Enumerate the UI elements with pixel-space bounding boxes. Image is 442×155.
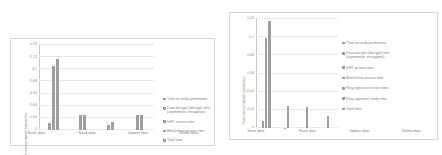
- legend-label: Time to verify permission: [167, 97, 207, 101]
- x-axis-tick-label: Update data: [334, 130, 386, 134]
- legend-item: Data encrypt (decrypt) time (asymmetric …: [163, 106, 225, 114]
- legend-swatch-icon: [342, 97, 345, 100]
- y-axis-tick-label: 0.04: [247, 90, 254, 94]
- bar: [107, 125, 110, 130]
- x-axis-labels-right: Store dataRead dataUpdate dataDelete dat…: [230, 130, 437, 134]
- figure-container: Time consumption (seconds) 00.020.040.06…: [0, 0, 442, 155]
- plot-frame-right: Time consumption (seconds) 00.020.040.06…: [229, 12, 438, 140]
- bar: [306, 107, 308, 128]
- bar: [83, 115, 86, 130]
- bar: [136, 115, 139, 130]
- legend-item: Blockchain access time: [163, 129, 225, 133]
- x-axis-tick-label: Update data: [113, 132, 164, 136]
- bar: [79, 115, 82, 130]
- legend-label: Data encrypt (decrypt) time (asymmetric …: [167, 106, 210, 114]
- legend-item: Ring signature verify time: [342, 97, 442, 101]
- y-axis-tick-label: 0.1: [32, 68, 37, 72]
- y-axis-tick-label: 0.08: [30, 80, 37, 84]
- y-axis-tick-label: 0.12: [247, 17, 254, 21]
- y-axis-tick-label: 0.06: [247, 72, 254, 76]
- bar-group: [256, 19, 277, 128]
- legend-swatch-icon: [163, 130, 166, 133]
- legend-item: Data encrypt (decrypt) time (asymmetric …: [342, 51, 442, 59]
- x-axis-tick-label: Read data: [282, 130, 334, 134]
- plot-area-left: 00.020.040.060.080.10.120.14: [39, 45, 154, 130]
- legend-item: Time to verify permission: [342, 41, 442, 45]
- legend-label: Total time: [346, 107, 361, 111]
- legend-item: Ring signature create time: [342, 86, 442, 90]
- bar-group: [277, 19, 298, 128]
- legend-item: DHT access time: [342, 66, 442, 70]
- legend-left: Time to verify permissionData encrypt (d…: [163, 97, 225, 148]
- y-axis-tick-label: 0.12: [30, 55, 37, 59]
- bar-groups-left: [39, 45, 154, 130]
- legend-item: Blockchain access time: [342, 76, 442, 80]
- y-axis-tick-label: 0.08: [247, 54, 254, 58]
- y-axis-tick-label: 0.02: [247, 108, 254, 112]
- bar-group: [39, 45, 68, 130]
- legend-swatch-icon: [342, 77, 345, 80]
- legend-swatch-icon: [342, 52, 345, 55]
- bar: [262, 121, 264, 128]
- bar-group: [97, 45, 126, 130]
- bar: [265, 38, 267, 128]
- legend-item: Total time: [163, 138, 225, 142]
- bar-group: [297, 19, 318, 128]
- bar-group: [68, 45, 97, 130]
- legend-label: Blockchain access time: [346, 76, 383, 80]
- legend-swatch-icon: [163, 120, 166, 123]
- bar: [56, 59, 59, 130]
- legend-swatch-icon: [342, 87, 345, 90]
- legend-label: DHT access time: [167, 120, 194, 124]
- chart-panel-left: Time consumption (seconds) 00.020.040.06…: [0, 0, 221, 155]
- legend-swatch-icon: [163, 139, 166, 142]
- chart-panel-right: Time consumption (seconds) 00.020.040.06…: [221, 0, 442, 155]
- bar: [327, 116, 329, 128]
- x-axis-tick-label: Store data: [230, 130, 282, 134]
- bar: [48, 123, 51, 130]
- bar-group: [318, 19, 339, 128]
- x-axis-tick-label: Delete data: [385, 130, 437, 134]
- y-axis-tick-label: 0.02: [30, 116, 37, 120]
- legend-swatch-icon: [342, 108, 345, 111]
- bar: [287, 106, 289, 128]
- y-axis-tick-label: 0.06: [30, 92, 37, 96]
- y-axis-tick-label: 0.04: [30, 104, 37, 108]
- legend-label: Ring signature verify time: [346, 97, 387, 101]
- x-axis-tick-label: Store data: [11, 132, 62, 136]
- y-axis-title-right: Time consumption (seconds): [243, 76, 247, 125]
- bar: [268, 21, 270, 128]
- legend-swatch-icon: [163, 107, 166, 110]
- legend-swatch-icon: [163, 98, 166, 101]
- legend-label: Total time: [167, 138, 182, 142]
- legend-right: Time to verify permissionData encrypt (d…: [342, 41, 442, 117]
- y-axis-tick-label: 0.1: [249, 35, 254, 39]
- legend-item: Total time: [342, 107, 442, 111]
- bar: [140, 115, 143, 130]
- x-axis-tick-label: Read data: [62, 132, 113, 136]
- legend-item: Time to verify permission: [163, 97, 225, 101]
- legend-swatch-icon: [342, 42, 345, 45]
- y-axis-tick-label: 0.14: [30, 43, 37, 47]
- legend-label: DHT access time: [346, 66, 373, 70]
- plot-frame-left: Time consumption (seconds) 00.020.040.06…: [10, 38, 215, 146]
- legend-swatch-icon: [342, 66, 345, 69]
- legend-label: Data encrypt (decrypt) time (asymmetric …: [346, 51, 389, 59]
- legend-label: Time to verify permission: [346, 41, 386, 45]
- bar-groups-right: [256, 19, 338, 128]
- legend-item: DHT access time: [163, 120, 225, 124]
- bar-group: [125, 45, 154, 130]
- legend-label: Blockchain access time: [167, 129, 204, 133]
- bar: [111, 122, 114, 130]
- legend-label: Ring signature create time: [346, 86, 388, 90]
- plot-area-right: 00.020.040.060.080.10.12: [256, 19, 338, 128]
- bar: [52, 66, 55, 130]
